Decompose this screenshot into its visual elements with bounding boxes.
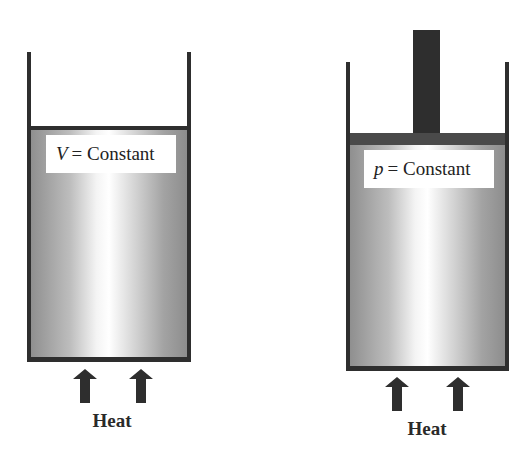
heat-arrow-icon xyxy=(446,377,470,411)
heat-arrow-icon xyxy=(73,369,97,403)
heat-label: Heat xyxy=(72,410,152,432)
right-container-right-wall xyxy=(505,62,509,371)
piston-rod xyxy=(413,30,440,134)
volume-variable: V xyxy=(56,143,68,165)
left-container-right-wall xyxy=(187,52,191,362)
right-container-bottom xyxy=(346,366,509,371)
pressure-constant-text: = Constant xyxy=(388,158,471,180)
heat-arrow-icon xyxy=(385,377,409,411)
pressure-constant-label: p = Constant xyxy=(364,150,494,188)
volume-constant-label: V = Constant xyxy=(46,135,176,173)
left-container-lid xyxy=(27,126,191,130)
left-container-bottom xyxy=(27,357,191,362)
piston-head xyxy=(350,133,505,145)
heat-label: Heat xyxy=(387,418,467,440)
volume-constant-text: = Constant xyxy=(72,143,155,165)
heat-arrow-icon xyxy=(129,369,153,403)
pressure-variable: p xyxy=(374,158,384,180)
